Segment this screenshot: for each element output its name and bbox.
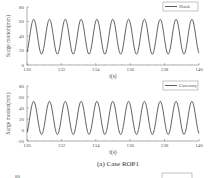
x-tick-label: 138 bbox=[161, 143, 169, 148]
y-tick-label: 80 bbox=[19, 5, 25, 10]
y-tick-label: 0 bbox=[22, 128, 25, 133]
chart-slack: 020406080130132134136138140t(s)Surge mot… bbox=[5, 2, 203, 80]
x-tick-label: 140 bbox=[195, 67, 203, 72]
figure: 020406080130132134136138140t(s)Surge mot… bbox=[0, 0, 214, 178]
x-tick-label: 136 bbox=[126, 143, 134, 148]
legend: Slack bbox=[163, 2, 198, 11]
x-tick-label: 130 bbox=[23, 143, 31, 148]
x-tick-label: 140 bbox=[195, 143, 203, 148]
x-axis-label: t(s) bbox=[109, 73, 117, 80]
chart-catenary: -20020406080130132134136138140t(s)Surge … bbox=[5, 81, 203, 156]
y-axis-label: Surge motion(mm) bbox=[5, 15, 12, 57]
y-tick-label: 60 bbox=[19, 95, 25, 100]
y-tick-label: 40 bbox=[19, 34, 25, 39]
y-tick-label: 40 bbox=[19, 106, 25, 111]
x-tick-label: 138 bbox=[161, 67, 169, 72]
y-tick-label: 20 bbox=[19, 48, 25, 53]
x-tick-label: 130 bbox=[23, 67, 31, 72]
legend: Catenary bbox=[163, 81, 198, 90]
series-line bbox=[27, 19, 199, 54]
y-axis-label: Surge motion(mm) bbox=[5, 92, 12, 134]
next-chart-partial: 80 bbox=[15, 173, 192, 178]
x-tick-label: 134 bbox=[92, 143, 100, 148]
x-tick-label: 136 bbox=[126, 67, 134, 72]
next-legend-box bbox=[162, 173, 192, 178]
y-tick-label: 80 bbox=[19, 84, 25, 89]
x-tick-label: 134 bbox=[92, 67, 100, 72]
x-tick-label: 132 bbox=[58, 67, 66, 72]
x-axis-label: t(s) bbox=[109, 149, 117, 156]
x-tick-label: 132 bbox=[58, 143, 66, 148]
figure-caption: (a) Case ROP1 bbox=[97, 160, 139, 168]
y-tick-label: 20 bbox=[19, 117, 25, 122]
next-ytick: 80 bbox=[15, 174, 21, 178]
series-line bbox=[27, 101, 199, 134]
legend-label: Catenary bbox=[179, 83, 198, 88]
y-tick-label: 60 bbox=[19, 19, 25, 24]
legend-label: Slack bbox=[179, 4, 191, 9]
